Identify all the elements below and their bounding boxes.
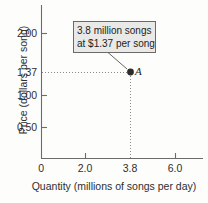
- x-tick-label-3-8: 3.8: [113, 162, 147, 174]
- callout-leader-line: [108, 53, 127, 70]
- callout-line-2: at $1.37 per song: [77, 37, 155, 50]
- callout-text: 3.8 million songs at $1.37 per song: [77, 24, 155, 50]
- x-tick-label-2-0: 2.0: [68, 162, 102, 174]
- x-tick-label-6-0: 6.0: [158, 162, 192, 174]
- x-tick-label-0: 0: [24, 162, 58, 174]
- price-quantity-chart: 2.00 1.37 1.00 0.50 0 2.0 3.8 6.0 Price …: [0, 0, 208, 203]
- data-point-a: [127, 69, 134, 76]
- x-axis-title: Quantity (millions of songs per day): [20, 180, 208, 192]
- callout-line-1: 3.8 million songs: [77, 24, 155, 37]
- data-point-label-a: A: [135, 65, 142, 77]
- y-axis-title: Price (dollars per song): [17, 5, 29, 155]
